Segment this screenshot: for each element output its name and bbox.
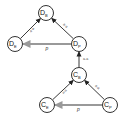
edge-label: p [45, 45, 49, 51]
diagram-svg: a-aa-apa-aa-aa-ap DBDEDPCBCECP [0, 0, 121, 119]
diagram-canvas: a-aa-apa-aa-aa-ap DBDEDPCBCECP [0, 0, 121, 119]
node-dp: DP [72, 37, 87, 52]
edge-label: a-a [61, 88, 68, 94]
node-cp: CP [103, 98, 118, 113]
node-cb: CB [72, 68, 87, 83]
node-de: DE [8, 37, 23, 52]
edge-label: a-a [29, 27, 36, 34]
edges-layer: a-aa-apa-aa-aa-ap [20, 18, 104, 112]
node-db: DB [39, 6, 54, 21]
edge-label: p [76, 106, 80, 112]
node-ce: CE [40, 98, 55, 113]
edge-dp-to-db [51, 18, 73, 39]
edge-cp-to-cb [84, 80, 104, 100]
edge-label: a-a [62, 22, 69, 28]
edge-label: a-a [94, 84, 101, 90]
edge-label: a-a [83, 57, 88, 61]
